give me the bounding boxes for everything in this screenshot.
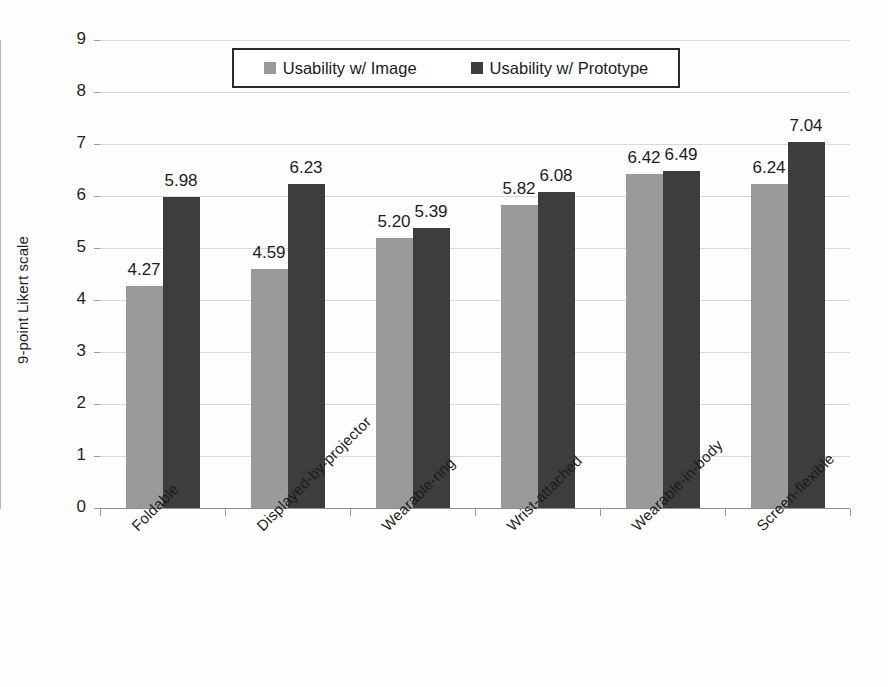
y-tick-label: 8 xyxy=(58,81,86,101)
y-tick-mark xyxy=(94,456,100,457)
y-tick-label: 6 xyxy=(58,185,86,205)
y-tick-mark xyxy=(94,196,100,197)
gridline xyxy=(100,92,850,93)
bar-value-label: 5.82 xyxy=(502,179,535,199)
y-tick-mark xyxy=(94,40,100,41)
bar xyxy=(376,238,413,508)
bar xyxy=(501,205,538,508)
gridline xyxy=(100,196,850,197)
y-tick-mark xyxy=(94,300,100,301)
y-tick-mark xyxy=(94,352,100,353)
y-tick-label: 1 xyxy=(58,445,86,465)
y-tick-label: 4 xyxy=(58,289,86,309)
legend-entry-usability-w-prototype: Usability w/ Prototype xyxy=(471,59,649,78)
gridline xyxy=(100,404,850,405)
y-tick-label: 2 xyxy=(58,393,86,413)
legend-label: Usability w/ Image xyxy=(283,59,417,78)
gridline xyxy=(100,352,850,353)
bar xyxy=(251,269,288,508)
y-tick-mark xyxy=(94,248,100,249)
y-tick-mark xyxy=(94,144,100,145)
bar-value-label: 5.98 xyxy=(164,171,197,191)
y-axis-title: 9-point Likert scale xyxy=(14,170,31,430)
bar-value-label: 6.24 xyxy=(752,158,785,178)
chart-legend: Usability w/ Image Usability w/ Prototyp… xyxy=(232,48,680,88)
x-tick-mark xyxy=(225,509,226,516)
bar-value-label: 4.59 xyxy=(252,243,285,263)
bar-value-label: 6.08 xyxy=(539,166,572,186)
x-tick-mark xyxy=(475,509,476,516)
x-tick-mark xyxy=(725,509,726,516)
legend-swatch-icon xyxy=(264,62,276,74)
bar xyxy=(751,184,788,508)
y-tick-mark xyxy=(94,404,100,405)
y-tick-mark xyxy=(94,92,100,93)
x-tick-mark xyxy=(600,509,601,516)
bar-value-label: 6.23 xyxy=(289,158,322,178)
legend-entry-usability-w-image: Usability w/ Image xyxy=(264,59,417,78)
gridline xyxy=(100,248,850,249)
gridline xyxy=(100,456,850,457)
y-axis-line xyxy=(0,40,1,509)
x-tick-mark xyxy=(850,509,851,516)
bar-value-label: 5.39 xyxy=(414,202,447,222)
y-tick-label: 3 xyxy=(58,341,86,361)
plot-area: 4.275.984.596.235.205.395.826.086.426.49… xyxy=(100,40,850,508)
bar-chart: 9-point Likert scale 9876543210 4.275.98… xyxy=(0,0,888,687)
bar xyxy=(788,142,825,508)
y-tick-label: 0 xyxy=(58,497,86,517)
legend-swatch-icon xyxy=(471,62,483,74)
legend-label: Usability w/ Prototype xyxy=(490,59,649,78)
gridline xyxy=(100,300,850,301)
y-tick-label: 7 xyxy=(58,133,86,153)
y-tick-label: 9 xyxy=(58,29,86,49)
bar xyxy=(626,174,663,508)
gridline xyxy=(100,144,850,145)
bar-value-label: 6.42 xyxy=(627,148,660,168)
bar-value-label: 4.27 xyxy=(127,260,160,280)
bar xyxy=(163,197,200,508)
bar-value-label: 6.49 xyxy=(664,145,697,165)
bar xyxy=(126,286,163,508)
x-tick-mark xyxy=(350,509,351,516)
bar-value-label: 7.04 xyxy=(789,116,822,136)
x-tick-mark xyxy=(100,509,101,516)
gridline xyxy=(100,40,850,41)
y-tick-label: 5 xyxy=(58,237,86,257)
bar-value-label: 5.20 xyxy=(377,212,410,232)
